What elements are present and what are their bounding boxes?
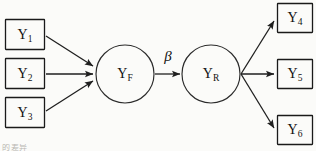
edge-y3-to-yf [46,81,93,111]
node-yf[interactable]: YF [96,45,154,103]
edge-group-left [46,36,93,111]
node-y2[interactable]: Y2 [6,59,45,89]
edge-yr-to-y6 [241,74,274,128]
diagram-canvas: Y1 Y2 Y3 YF YR [0,0,316,151]
node-y6[interactable]: Y6 [278,116,313,145]
node-y1[interactable]: Y1 [6,20,45,50]
node-y5[interactable]: Y5 [278,60,313,89]
scan-edge-artifact: 的差异 [2,144,28,151]
node-y4[interactable]: Y4 [278,4,313,33]
node-yr[interactable]: YR [182,45,240,103]
beta-parameter-label: β [163,48,172,64]
node-y3[interactable]: Y3 [6,98,45,128]
edge-yr-to-y4 [241,21,274,74]
path-diagram: Y1 Y2 Y3 YF YR [0,0,316,151]
edge-group-right [241,21,274,128]
edge-y1-to-yf [46,36,93,66]
